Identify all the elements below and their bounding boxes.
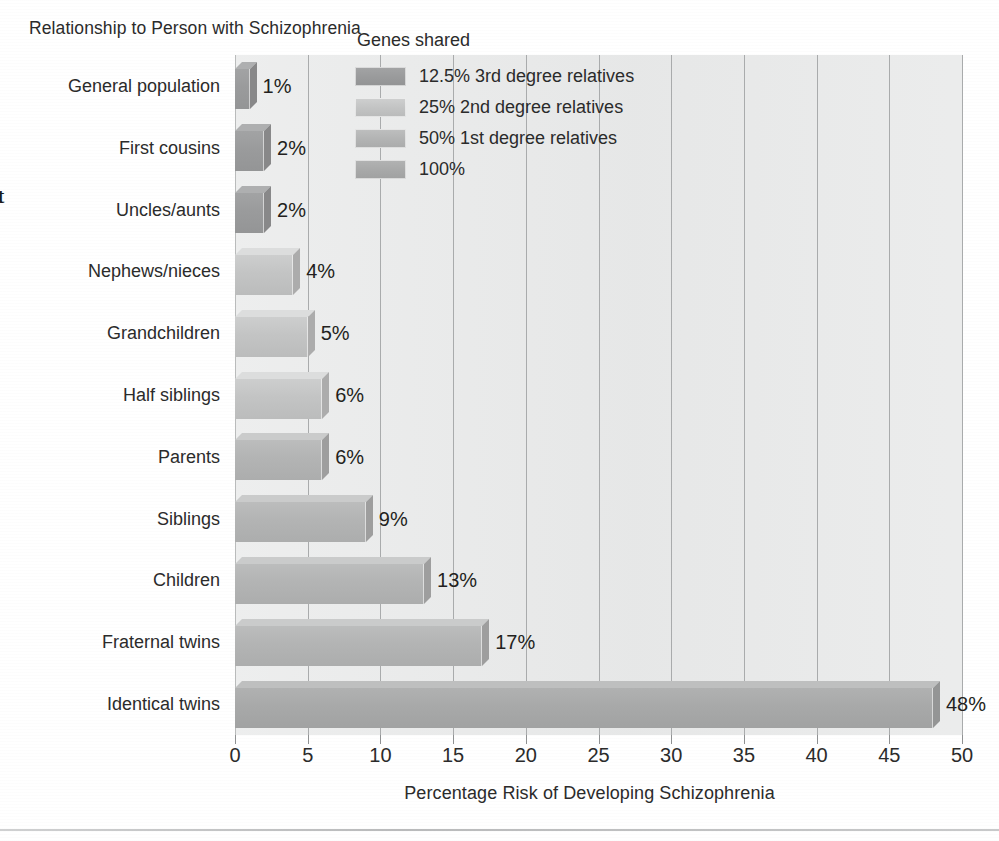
category-label: Half siblings <box>123 385 220 406</box>
category-label: Nephews/nieces <box>88 261 220 282</box>
bar-top-face <box>235 557 431 564</box>
tick-label-30: 30 <box>660 744 682 767</box>
bar-top-face <box>235 433 329 440</box>
tick-label-45: 45 <box>878 744 900 767</box>
legend-entry: 25% 2nd degree relatives <box>355 92 685 123</box>
bar-top-face <box>235 310 315 317</box>
page-bottom-rule <box>0 829 999 831</box>
tick-mark-0 <box>235 735 236 744</box>
bar-front-face <box>235 502 366 542</box>
bar-value-label: 13% <box>437 569 477 592</box>
bar-value-label: 4% <box>306 260 335 283</box>
tick-mark-15 <box>453 735 454 744</box>
legend-swatch <box>355 129 406 148</box>
legend-label: 12.5% 3rd degree relatives <box>419 66 634 87</box>
bar-side-face <box>933 681 940 728</box>
tick-label-0: 0 <box>229 744 240 767</box>
category-label: Identical twins <box>107 694 220 715</box>
tick-label-35: 35 <box>733 744 755 767</box>
x-axis-title: Percentage Risk of Developing Schizophre… <box>0 783 999 804</box>
bar-side-face <box>250 62 257 109</box>
bar <box>235 619 489 666</box>
legend-title: Genes shared <box>355 30 685 51</box>
bar-value-label: 6% <box>335 445 364 468</box>
bar-top-face <box>235 495 373 502</box>
gridline-45 <box>889 55 890 735</box>
bar-side-face <box>482 619 489 666</box>
bar <box>235 495 373 542</box>
chart-title: Relationship to Person with Schizophreni… <box>29 18 361 39</box>
bar-value-label: 5% <box>321 322 350 345</box>
legend-label: 50% 1st degree relatives <box>419 128 617 149</box>
legend-label: 25% 2nd degree relatives <box>419 97 623 118</box>
bar-value-label: 48% <box>946 693 986 716</box>
tick-mark-5 <box>308 735 309 744</box>
bar-side-face <box>322 372 329 419</box>
tick-mark-50 <box>962 735 963 744</box>
bar-value-label: 2% <box>277 136 306 159</box>
bar <box>235 248 300 295</box>
tick-label-5: 5 <box>302 744 313 767</box>
bar <box>235 310 315 357</box>
tick-label-10: 10 <box>369 744 391 767</box>
legend: Genes shared 12.5% 3rd degree relatives2… <box>355 30 685 185</box>
page-edge-glyph: t <box>0 183 4 209</box>
tick-mark-35 <box>744 735 745 744</box>
tick-label-20: 20 <box>515 744 537 767</box>
legend-entries: 12.5% 3rd degree relatives25% 2nd degree… <box>355 61 685 185</box>
x-axis-title-text: Percentage Risk of Developing Schizophre… <box>224 783 775 803</box>
bar-top-face <box>235 372 329 379</box>
bar-top-face <box>235 681 940 688</box>
category-label: Parents <box>158 446 220 467</box>
bar-side-face <box>308 310 315 357</box>
bar <box>235 186 271 233</box>
tick-label-40: 40 <box>805 744 827 767</box>
category-label: Siblings <box>157 508 220 529</box>
bar-front-face <box>235 131 264 171</box>
bar-front-face <box>235 626 482 666</box>
gridline-40 <box>817 55 818 735</box>
gridline-50 <box>962 55 963 735</box>
tick-mark-10 <box>380 735 381 744</box>
bar-front-face <box>235 69 250 109</box>
category-label: Uncles/aunts <box>116 199 220 220</box>
tick-label-15: 15 <box>442 744 464 767</box>
tick-mark-20 <box>526 735 527 744</box>
bar <box>235 557 431 604</box>
bar-front-face <box>235 688 933 728</box>
bar-side-face <box>293 248 300 295</box>
bar-front-face <box>235 255 293 295</box>
legend-swatch <box>355 98 406 117</box>
bar <box>235 433 329 480</box>
category-label: First cousins <box>119 137 220 158</box>
bar-front-face <box>235 379 322 419</box>
tick-mark-25 <box>599 735 600 744</box>
bar-front-face <box>235 317 308 357</box>
legend-swatch <box>355 160 406 179</box>
category-label: Children <box>153 570 220 591</box>
bar-top-face <box>235 248 300 255</box>
category-label: General population <box>68 75 220 96</box>
bar <box>235 124 271 171</box>
category-label: Fraternal twins <box>102 632 220 653</box>
tick-label-25: 25 <box>587 744 609 767</box>
legend-entry: 12.5% 3rd degree relatives <box>355 61 685 92</box>
gridline-35 <box>744 55 745 735</box>
bar-front-face <box>235 440 322 480</box>
bar-front-face <box>235 564 424 604</box>
tick-mark-40 <box>817 735 818 744</box>
bar-value-label: 1% <box>263 74 292 97</box>
legend-swatch <box>355 67 406 86</box>
legend-entry: 50% 1st degree relatives <box>355 123 685 154</box>
category-label: Grandchildren <box>107 323 220 344</box>
bar-side-face <box>366 495 373 542</box>
bar <box>235 62 257 109</box>
bar <box>235 681 940 728</box>
chart-page: the risk of developing schizophreniaincr… <box>0 0 999 841</box>
bar-value-label: 6% <box>335 384 364 407</box>
legend-entry: 100% <box>355 154 685 185</box>
bar-side-face <box>322 433 329 480</box>
bar <box>235 372 329 419</box>
legend-label: 100% <box>419 159 465 180</box>
tick-label-50: 50 <box>951 744 973 767</box>
